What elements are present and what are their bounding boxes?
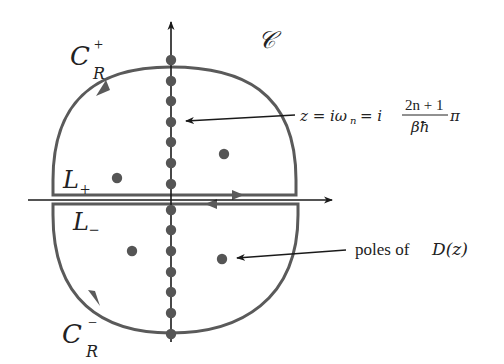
svg-text:z = iω: z = iω: [299, 107, 347, 125]
poles-annotation: poles of D(z): [355, 239, 468, 259]
matsubara-pole: [166, 137, 176, 147]
contour-diagram: 𝒞 C + R C − R L + L − z = iω n = i 2n + …: [0, 0, 504, 364]
matsubara-pole: [166, 225, 176, 235]
matsubara-pole: [166, 117, 176, 127]
matsubara-pole: [166, 287, 176, 297]
matsubara-pole: [166, 246, 176, 256]
matsubara-formula: z = iω n = i 2n + 1 βħ π: [299, 97, 461, 136]
svg-text:R: R: [92, 64, 105, 83]
matsubara-pole: [166, 96, 176, 106]
svg-text:C: C: [62, 319, 82, 349]
matsubara-pole: [166, 267, 176, 277]
svg-text:π: π: [449, 107, 461, 125]
matsubara-pole: [166, 55, 176, 65]
svg-text:βħ: βħ: [410, 118, 429, 136]
svg-text:+: +: [80, 180, 90, 200]
contour-name-label: 𝒞: [258, 26, 282, 54]
matsubara-pole: [166, 329, 176, 339]
svg-text:R: R: [85, 342, 98, 361]
svg-text:= i: = i: [360, 107, 382, 125]
pole-of-d: [217, 254, 227, 264]
svg-text:D(z): D(z): [431, 239, 468, 259]
svg-text:L: L: [72, 208, 89, 236]
svg-text:−: −: [88, 314, 97, 331]
svg-text:−: −: [89, 220, 99, 240]
svg-text:n: n: [350, 115, 356, 126]
pole-of-d: [219, 149, 229, 159]
svg-text:poles of: poles of: [355, 240, 410, 259]
pole-of-d: [112, 173, 122, 183]
upper-contour: [53, 67, 296, 195]
matsubara-pole: [166, 205, 176, 215]
upper-arc-label: C + R: [70, 36, 105, 83]
matsubara-pointer-arrow: [186, 115, 295, 121]
matsubara-pole: [166, 308, 176, 318]
svg-text:+: +: [94, 36, 103, 53]
lower-line-label: L −: [72, 208, 99, 240]
lower-arc-arrow-icon: [88, 290, 100, 306]
svg-text:C: C: [70, 41, 90, 71]
matsubara-pole: [166, 76, 176, 86]
svg-text:L: L: [62, 166, 79, 194]
svg-text:2n + 1: 2n + 1: [405, 97, 443, 113]
matsubara-pole: [166, 158, 176, 168]
pole-of-d: [127, 246, 137, 256]
lower-arc-label: C − R: [62, 314, 98, 361]
upper-line-arrow-icon: [232, 190, 244, 200]
matsubara-pole: [166, 179, 176, 189]
